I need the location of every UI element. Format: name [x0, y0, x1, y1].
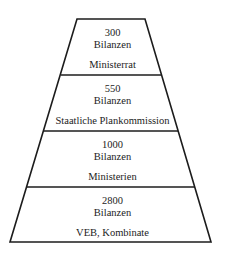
tier-unit: Bilanzen — [0, 207, 225, 219]
tier-unit: Bilanzen — [0, 39, 225, 51]
tier-ministerien: 1000 Bilanzen Ministerien — [0, 139, 225, 183]
tier-unit: Bilanzen — [0, 95, 225, 107]
tier-label: Ministerrat — [0, 59, 225, 71]
tier-label: Ministerien — [0, 171, 225, 183]
tier-count: 550 — [0, 83, 225, 95]
tier-count: 2800 — [0, 195, 225, 207]
tier-count: 300 — [0, 27, 225, 39]
tier-ministerrat: 300 Bilanzen Ministerrat — [0, 27, 225, 71]
tier-label: VEB, Kombinate — [0, 227, 225, 239]
tier-unit: Bilanzen — [0, 151, 225, 163]
tier-staatliche-plankommission: 550 Bilanzen Staatliche Plankommission — [0, 83, 225, 127]
tier-label: Staatliche Plankommission — [0, 115, 225, 127]
tier-count: 1000 — [0, 139, 225, 151]
tier-veb-kombinate: 2800 Bilanzen VEB, Kombinate — [0, 195, 225, 239]
